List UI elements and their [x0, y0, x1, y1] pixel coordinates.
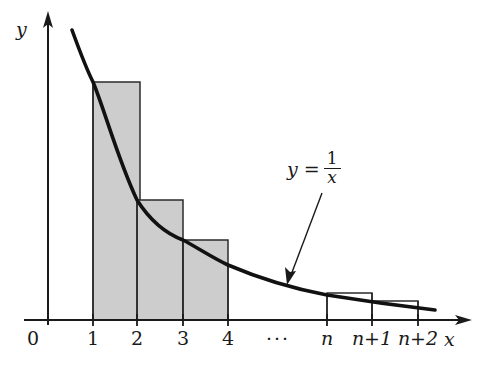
equation-denominator: x [324, 169, 340, 187]
rectangle-2-to-3 [137, 200, 183, 320]
figure-canvas: y x 0 1 2 3 4 ··· n n+1 n+2 y = 1 x [0, 0, 487, 370]
equation-prefix: y = [287, 158, 320, 180]
shaded-rectangles [93, 82, 228, 320]
x-axis-label: x [444, 328, 455, 350]
x-tick-label-n-plus-2: n+2 [398, 327, 438, 349]
origin-label: 0 [27, 327, 39, 349]
x-tick-label-4: 4 [222, 327, 234, 349]
y-axis-label: y [16, 18, 27, 40]
diagram-svg [0, 0, 487, 370]
equation-numerator: 1 [324, 150, 341, 168]
x-tick-label-ellipsis: ··· [266, 327, 290, 349]
x-axis [24, 315, 472, 325]
x-tick-label-3: 3 [177, 327, 189, 349]
x-tick-label-1: 1 [87, 327, 99, 349]
x-tick-label-2: 2 [131, 327, 143, 349]
x-tick-label-n: n [321, 327, 333, 349]
leader-arrowhead [285, 267, 296, 285]
rectangle-1-to-2 [93, 82, 140, 320]
curve-equation-label: y = 1 x [287, 150, 341, 187]
leader-line [291, 193, 322, 275]
equation-fraction: 1 x [324, 150, 341, 187]
annotation-leader [285, 193, 322, 285]
x-tick-label-n-plus-1: n+1 [352, 327, 392, 349]
y-axis [43, 11, 53, 325]
